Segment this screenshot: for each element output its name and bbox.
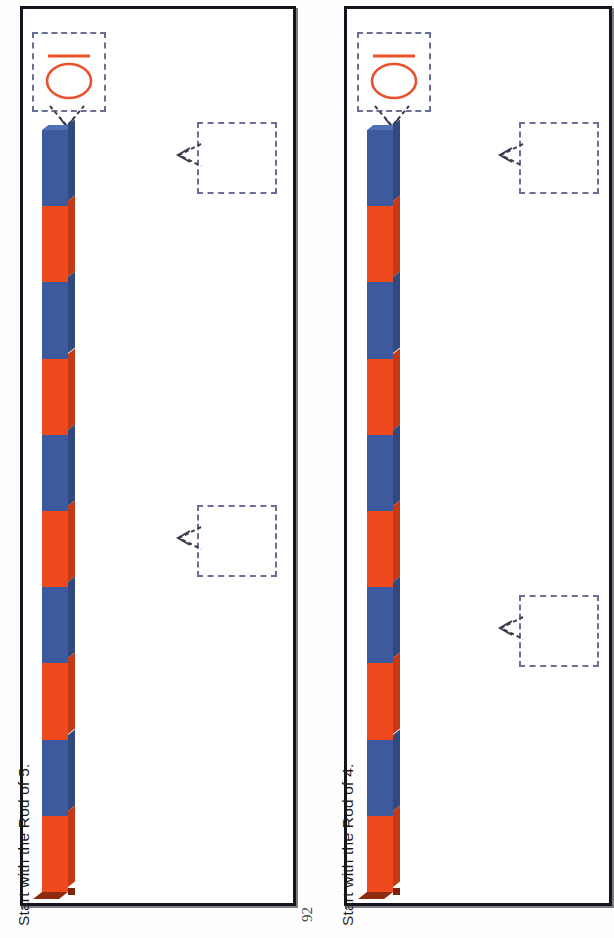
rod-segment-orange — [42, 206, 68, 282]
handwritten-number-10-icon — [31, 37, 107, 107]
answer-box-1-b[interactable] — [197, 505, 277, 577]
panel-1-caption: Start with the Rod of 5. — [15, 764, 33, 926]
rod-segment-orange — [367, 511, 393, 587]
rod-face — [367, 130, 393, 892]
answer-box-2-b[interactable] — [519, 595, 599, 667]
rod-segment-blue — [42, 435, 68, 511]
answer-box-1-b-arrow-left-icon — [175, 523, 203, 553]
panel-2-caption: Start with the Rod of 4. — [339, 764, 357, 926]
rod-segment-orange — [42, 816, 68, 892]
rod-segment-orange — [42, 663, 68, 739]
rod-segment-orange — [367, 206, 393, 282]
rod-segment-blue — [42, 282, 68, 358]
rod-segment-blue — [367, 130, 393, 206]
handwritten-number-10-icon — [356, 37, 432, 107]
rod-segment-blue — [42, 587, 68, 663]
rod-segment-blue — [367, 435, 393, 511]
rod-segment-blue — [42, 740, 68, 816]
rod-bottom-side — [393, 888, 400, 895]
worksheet-page: Start with the Rod of 5. 10 — [0, 0, 614, 938]
rod-segment-orange — [42, 359, 68, 435]
rod-segment-orange — [367, 359, 393, 435]
answer-box-1-a-arrow-left-icon — [175, 140, 203, 170]
rod-segment-blue — [367, 740, 393, 816]
answer-box-1-a[interactable] — [197, 122, 277, 194]
panel-2-numeral-card[interactable]: 10 — [357, 32, 431, 112]
rod-face — [42, 130, 68, 892]
page-number: 92 — [299, 907, 316, 922]
rod-segment-orange — [367, 663, 393, 739]
panel-1-numeral-card[interactable]: 10 — [32, 32, 106, 112]
answer-box-2-a-arrow-left-icon — [497, 140, 525, 170]
rod-segment-orange — [367, 816, 393, 892]
answer-box-2-b-arrow-left-icon — [497, 613, 525, 643]
answer-box-2-a[interactable] — [519, 122, 599, 194]
rod-bottom-side — [68, 888, 75, 895]
rod-segment-blue — [42, 130, 68, 206]
rod-segment-blue — [367, 282, 393, 358]
rod-segment-orange — [42, 511, 68, 587]
rod-segment-blue — [367, 587, 393, 663]
